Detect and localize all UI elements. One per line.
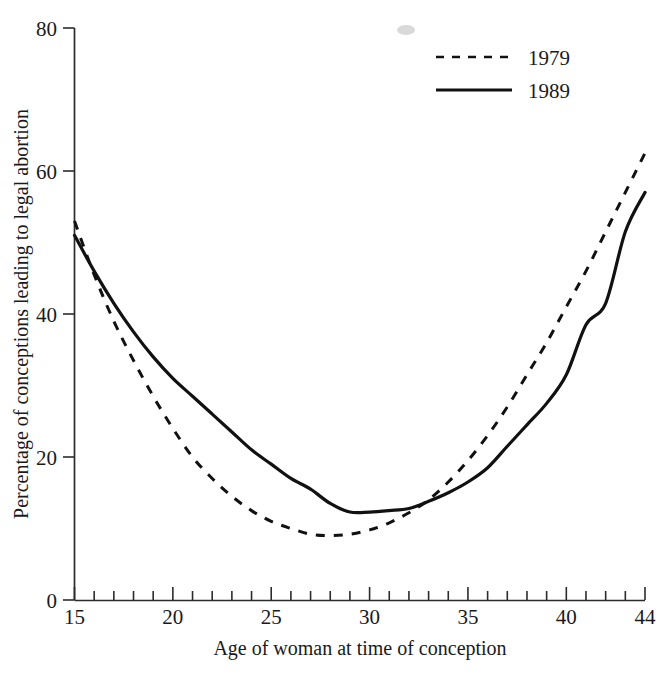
x-tick-label-20: 20 [162, 605, 183, 629]
x-tick-label-44: 44 [635, 605, 657, 629]
legend-label-1979: 1979 [528, 46, 570, 70]
chart-legend: 1979 1989 [436, 46, 570, 103]
x-tick-label-15: 15 [64, 605, 85, 629]
series-line-1989 [75, 192, 646, 512]
y-axis-ticks [63, 28, 75, 600]
x-tick-label-25: 25 [261, 605, 282, 629]
scan-artifact [397, 25, 415, 35]
line-chart-svg: 80 60 40 20 0 15202530354044 Age of woma… [0, 0, 665, 674]
x-tick-label-30: 30 [359, 605, 380, 629]
chart-figure: 80 60 40 20 0 15202530354044 Age of woma… [0, 0, 665, 674]
y-tick-label-20: 20 [36, 446, 57, 470]
legend-label-1989: 1989 [528, 79, 570, 103]
y-tick-label-60: 60 [36, 160, 57, 184]
x-tick-label-40: 40 [556, 605, 577, 629]
x-axis-ticks [75, 587, 646, 600]
series-line-1979 [75, 153, 646, 536]
x-tick-label-35: 35 [457, 605, 478, 629]
x-axis-title: Age of woman at time of conception [213, 637, 506, 660]
x-axis-tick-labels: 15202530354044 [64, 605, 656, 629]
y-tick-label-40: 40 [36, 303, 57, 327]
y-tick-label-80: 80 [36, 17, 57, 41]
y-axis-title: Percentage of conceptions leading to leg… [10, 109, 33, 519]
y-tick-label-0: 0 [47, 589, 58, 613]
